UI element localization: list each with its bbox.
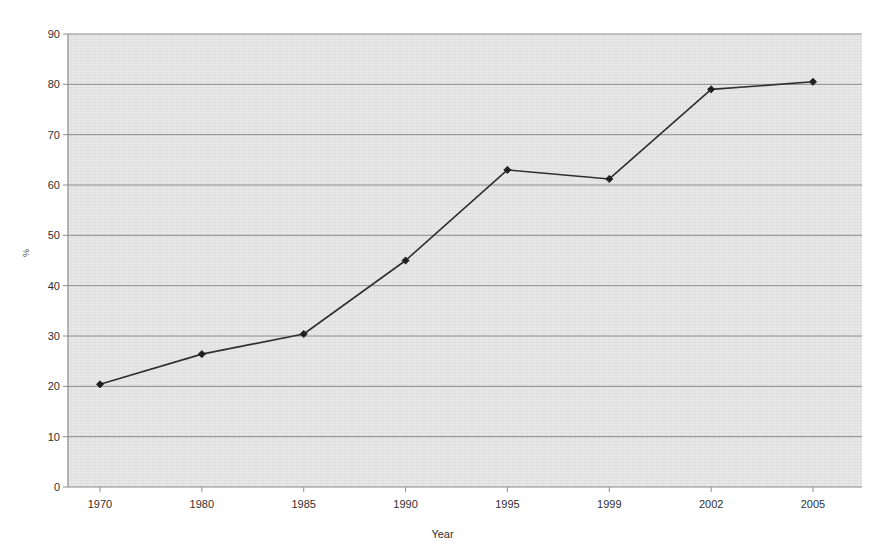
x-tick-label: 2002	[681, 498, 741, 510]
x-tick-label: 1995	[477, 498, 537, 510]
plot-background	[68, 34, 862, 487]
x-tick-label: 1999	[579, 498, 639, 510]
x-tick-label: 1990	[376, 498, 436, 510]
line-chart-figure: 0102030405060708090 % 197019801985199019…	[0, 0, 885, 560]
x-tick-label: 1985	[274, 498, 334, 510]
chart-plot-area	[0, 0, 885, 560]
x-tick-marks-group	[100, 487, 813, 492]
y-tick-marks-group	[63, 34, 68, 487]
x-tick-label: 2005	[783, 498, 843, 510]
y-axis-title: %	[21, 233, 31, 273]
x-tick-label: 1980	[172, 498, 232, 510]
x-tick-label: 1970	[70, 498, 130, 510]
x-axis-title: Year	[0, 528, 885, 540]
